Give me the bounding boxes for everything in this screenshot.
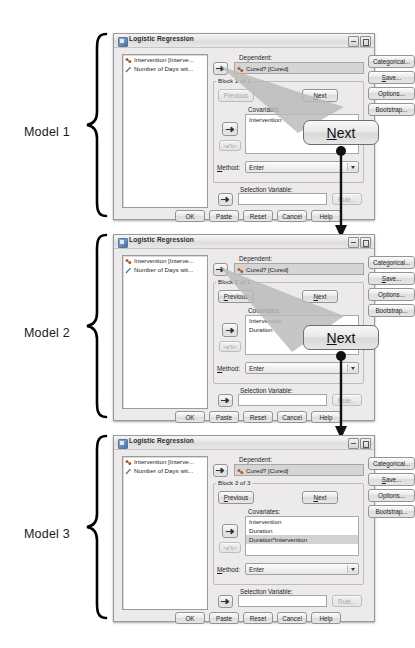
list-item-label: Intervention [Interve... [134, 458, 194, 465]
interaction-button: >a*b> [219, 140, 241, 151]
reset-button[interactable]: Reset [243, 411, 273, 423]
nominal-variable-icon [125, 258, 132, 265]
save-button[interactable]: Save... [368, 272, 415, 285]
scale-variable-icon [125, 66, 132, 73]
minimize-button[interactable] [348, 36, 359, 47]
callout-label: Next [327, 125, 356, 141]
save-button[interactable]: Save... [368, 71, 415, 84]
nominal-variable-icon [125, 459, 132, 466]
maximize-button[interactable] [360, 438, 371, 449]
bootstrap-button[interactable]: Bootstrap... [368, 103, 415, 116]
options-button[interactable]: Options... [368, 87, 415, 100]
model-2-brace [84, 233, 110, 419]
rule-button: Rule... [332, 595, 362, 607]
dependent-label: Dependent: [239, 255, 272, 262]
list-item[interactable]: Number of Days wit... [123, 64, 207, 73]
flow-arrow-2 [328, 348, 354, 440]
ok-button[interactable]: OK [175, 210, 205, 222]
list-item-label: Intervention [Interve... [134, 257, 194, 264]
paste-button[interactable]: Paste [209, 612, 239, 624]
dependent-value: Cured? [Cured] [235, 465, 363, 475]
cancel-button[interactable]: Cancel [277, 411, 307, 423]
minimize-button[interactable] [348, 438, 359, 449]
maximize-button[interactable] [360, 36, 371, 47]
selection-variable-field[interactable] [238, 595, 327, 607]
window-title: Logistic Regression [129, 35, 194, 42]
window-controls[interactable] [348, 438, 371, 449]
method-value: Enter [246, 365, 264, 372]
maximize-button[interactable] [360, 237, 371, 248]
help-button[interactable]: Help [311, 612, 341, 624]
move-dependent-button[interactable] [213, 464, 228, 477]
ok-button[interactable]: OK [175, 612, 205, 624]
paste-button[interactable]: Paste [209, 411, 239, 423]
next-callout-1[interactable]: Next [303, 120, 379, 145]
logistic-regression-dialog-model-3[interactable]: Logistic Regression Intervention [Interv… [113, 435, 375, 622]
chevron-down-icon[interactable] [347, 565, 357, 573]
ok-button[interactable]: OK [175, 411, 205, 423]
list-item[interactable]: Duration [246, 526, 358, 535]
method-value: Enter [246, 164, 264, 171]
window-controls[interactable] [348, 36, 371, 47]
move-selection-variable-button[interactable] [218, 394, 233, 407]
method-combo[interactable]: Enter [245, 563, 359, 575]
nominal-variable-icon [125, 57, 132, 64]
source-variable-list[interactable]: Intervention [Interve... Number of Days … [122, 255, 208, 409]
list-item[interactable]: Number of Days wit... [123, 265, 207, 274]
window-title: Logistic Regression [129, 437, 194, 444]
nominal-variable-icon [237, 468, 244, 475]
move-selection-variable-button[interactable] [218, 193, 233, 206]
flow-arrow-1 [328, 143, 354, 239]
scale-variable-icon [125, 267, 132, 274]
window-controls[interactable] [348, 237, 371, 248]
source-variable-list[interactable]: Intervention [Interve... Number of Days … [122, 456, 208, 610]
list-item-label: Number of Days wit... [134, 266, 193, 273]
source-variable-list[interactable]: Intervention [Interve... Number of Days … [122, 54, 208, 208]
method-value: Enter [246, 566, 264, 573]
list-item[interactable]: Intervention [Interve... [123, 256, 207, 265]
categorical-button[interactable]: Categorical... [368, 457, 415, 470]
interaction-button: >a*b> [219, 542, 241, 553]
reset-button[interactable]: Reset [243, 612, 273, 624]
previous-button[interactable]: Previous [218, 491, 254, 504]
model-1-brace [84, 32, 110, 218]
titlebar[interactable]: Logistic Regression [114, 34, 374, 48]
categorical-button[interactable]: Categorical... [368, 55, 415, 68]
bootstrap-button[interactable]: Bootstrap... [368, 304, 415, 317]
list-item-label: Intervention [Interve... [134, 56, 194, 63]
move-covariate-button[interactable] [222, 524, 238, 538]
selection-variable-field[interactable] [238, 394, 327, 406]
options-button[interactable]: Options... [368, 288, 415, 301]
covariates-list[interactable]: Intervention Duration Duration*Intervent… [245, 516, 359, 556]
options-button[interactable]: Options... [368, 489, 415, 502]
next-callout-2[interactable]: Next [303, 325, 379, 350]
selection-variable-field[interactable] [238, 193, 327, 205]
titlebar[interactable]: Logistic Regression [114, 235, 374, 249]
list-item[interactable]: Intervention [Interve... [123, 457, 207, 466]
model-3-label: Model 3 [24, 527, 70, 541]
categorical-button[interactable]: Categorical... [368, 256, 415, 269]
list-item[interactable]: Duration*Intervention [246, 535, 358, 544]
next-button[interactable]: Next [302, 491, 338, 504]
covariates-label: Covariates: [248, 508, 280, 515]
save-button[interactable]: Save... [368, 473, 415, 486]
reset-button[interactable]: Reset [243, 210, 273, 222]
move-selection-variable-button[interactable] [218, 595, 233, 608]
dependent-field[interactable]: Cured? [Cured] [234, 464, 364, 476]
dependent-label: Dependent: [239, 456, 272, 463]
paste-button[interactable]: Paste [209, 210, 239, 222]
method-label: Method: [217, 365, 240, 372]
spss-dialog-icon [118, 439, 128, 449]
list-item-label: Number of Days wit... [134, 467, 193, 474]
list-item[interactable]: Number of Days wit... [123, 466, 207, 475]
selection-variable-label: Selection Variable: [240, 387, 293, 394]
minimize-button[interactable] [348, 237, 359, 248]
titlebar[interactable]: Logistic Regression [114, 436, 374, 450]
cancel-button[interactable]: Cancel [277, 210, 307, 222]
list-item[interactable]: Intervention [Interve... [123, 55, 207, 64]
list-item-label: Number of Days wit... [134, 65, 193, 72]
list-item[interactable]: Intervention [246, 517, 358, 526]
bootstrap-button[interactable]: Bootstrap... [368, 505, 415, 518]
cancel-button[interactable]: Cancel [277, 612, 307, 624]
